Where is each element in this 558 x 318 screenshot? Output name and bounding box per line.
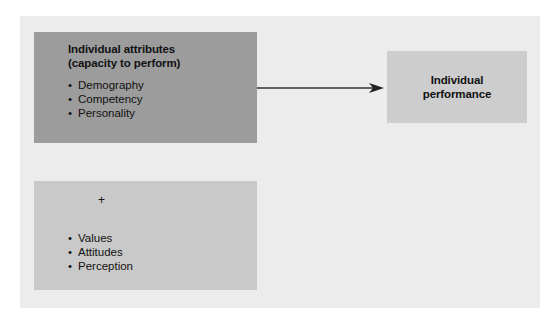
bullet-icon: • bbox=[68, 259, 72, 273]
list-item-label: Competency bbox=[78, 93, 143, 105]
list-item: •Demography bbox=[68, 78, 257, 92]
bullet-icon: • bbox=[68, 92, 72, 106]
list-item-label: Values bbox=[78, 232, 112, 244]
list-item-label: Demography bbox=[78, 79, 144, 91]
bullet-icon: • bbox=[68, 78, 72, 92]
list-item: •Values bbox=[68, 231, 257, 245]
bullet-icon: • bbox=[68, 106, 72, 120]
list-item: •Perception bbox=[68, 259, 257, 273]
list-item: •Attitudes bbox=[68, 245, 257, 259]
bullet-icon: • bbox=[68, 231, 72, 245]
other-factors-list: •Values •Attitudes •Perception bbox=[68, 231, 257, 273]
list-item-label: Perception bbox=[78, 260, 133, 272]
arrow-right-icon bbox=[257, 82, 387, 94]
bullet-icon: • bbox=[68, 245, 72, 259]
performance-title-line2: performance bbox=[423, 87, 492, 101]
attributes-title-line2: (capacity to perform) bbox=[68, 56, 257, 70]
list-item: •Competency bbox=[68, 92, 257, 106]
plus-icon: + bbox=[98, 193, 257, 207]
other-factors-box: + •Values •Attitudes •Perception bbox=[34, 181, 257, 290]
attributes-title: Individual attributes (capacity to perfo… bbox=[68, 42, 257, 70]
performance-title-line1: Individual bbox=[423, 73, 492, 87]
performance-title: Individual performance bbox=[423, 73, 492, 101]
attributes-title-line1: Individual attributes bbox=[68, 42, 257, 56]
attributes-list: •Demography •Competency •Personality bbox=[68, 78, 257, 120]
list-item-label: Personality bbox=[78, 107, 135, 119]
individual-performance-box: Individual performance bbox=[387, 51, 527, 123]
list-item-label: Attitudes bbox=[78, 246, 123, 258]
individual-attributes-box: Individual attributes (capacity to perfo… bbox=[34, 32, 257, 143]
list-item: •Personality bbox=[68, 106, 257, 120]
